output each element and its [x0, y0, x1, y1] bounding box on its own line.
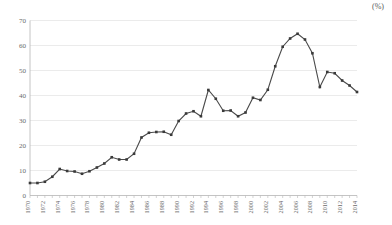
data-point-marker [333, 72, 336, 75]
data-point-marker [192, 110, 195, 113]
x-tick-label: 1982 [113, 201, 120, 213]
x-tick-label: 1992 [188, 201, 195, 213]
series-markers-group [29, 32, 359, 184]
x-tick-label: 1978 [83, 201, 90, 213]
data-point-marker [170, 133, 173, 136]
x-tick-label: 1988 [158, 201, 165, 213]
y-axis-tick-labels: 010203040506070 [19, 17, 27, 200]
data-point-marker [311, 52, 314, 55]
data-point-marker [296, 32, 299, 35]
y-tick-label: 0 [23, 192, 27, 200]
y-tick-label: 70 [19, 17, 27, 25]
x-tick-label: 2002 [262, 201, 269, 213]
y-tick-label: 40 [19, 92, 27, 100]
x-tick-label: 1990 [173, 201, 180, 213]
data-point-marker [207, 89, 210, 92]
x-tick-label: 1998 [232, 201, 239, 213]
data-point-marker [88, 170, 91, 173]
data-point-marker [267, 88, 270, 91]
data-point-marker [51, 175, 54, 178]
data-point-marker [140, 136, 143, 139]
data-point-marker [274, 65, 277, 68]
y-tick-label: 30 [19, 117, 27, 125]
x-tick-label: 2000 [247, 201, 254, 213]
data-point-marker [326, 71, 329, 74]
chart-svg: 010203040506070 197019721974197619781980… [0, 0, 392, 225]
data-point-marker [162, 130, 165, 133]
data-point-marker [36, 182, 39, 185]
y-tick-label: 10 [19, 167, 27, 175]
data-point-marker [281, 45, 284, 48]
data-point-marker [44, 180, 47, 183]
data-point-marker [356, 91, 359, 94]
data-point-marker [58, 168, 61, 171]
data-point-marker [259, 99, 262, 102]
x-tick-label: 1974 [54, 201, 61, 213]
y-tick-label: 20 [19, 142, 27, 150]
x-tick-label: 2012 [336, 201, 343, 213]
data-point-marker [118, 158, 121, 161]
line-chart: 010203040506070 197019721974197619781980… [0, 0, 392, 225]
data-point-marker [229, 109, 232, 112]
data-point-marker [155, 131, 158, 134]
y-tick-label: 50 [19, 67, 27, 75]
x-tick-label: 2004 [277, 201, 284, 213]
data-point-marker [73, 170, 76, 173]
data-point-marker [125, 158, 128, 161]
data-point-marker [110, 156, 113, 159]
data-point-marker [66, 170, 69, 173]
data-point-marker [103, 162, 106, 165]
x-tick-label: 1972 [39, 201, 46, 213]
data-point-marker [319, 86, 322, 89]
x-axis-tick-labels: 1970197219741976197819801982198419861988… [24, 201, 358, 213]
x-tick-label: 1970 [24, 201, 31, 213]
data-point-marker [237, 115, 240, 118]
data-point-marker [289, 37, 292, 40]
x-tick-label: 1980 [98, 201, 105, 213]
data-point-marker [81, 172, 84, 175]
series-line [30, 34, 357, 183]
data-point-marker [29, 182, 32, 185]
data-point-marker [215, 97, 218, 100]
data-point-marker [222, 109, 225, 112]
data-point-marker [341, 79, 344, 82]
x-tick-label: 2010 [321, 201, 328, 213]
x-tick-label: 1976 [69, 201, 76, 213]
x-tick-label: 2008 [306, 201, 313, 213]
data-point-marker [244, 111, 247, 114]
gridlines-group [30, 21, 357, 171]
data-point-marker [252, 96, 255, 99]
data-point-marker [96, 166, 99, 169]
data-point-marker [200, 115, 203, 118]
data-point-marker [304, 38, 307, 41]
y-tick-label: 60 [19, 42, 27, 50]
x-tick-label: 2014 [351, 201, 358, 213]
data-point-marker [348, 84, 351, 87]
data-point-marker [148, 131, 151, 134]
x-tick-label: 1986 [143, 201, 150, 213]
x-tick-label: 2006 [292, 201, 299, 213]
x-tick-label: 1994 [202, 201, 209, 213]
x-tick-label: 1984 [128, 201, 135, 213]
x-tick-label: 1996 [217, 201, 224, 213]
data-point-marker [133, 152, 136, 155]
data-point-marker [177, 120, 180, 123]
data-point-marker [185, 112, 188, 115]
